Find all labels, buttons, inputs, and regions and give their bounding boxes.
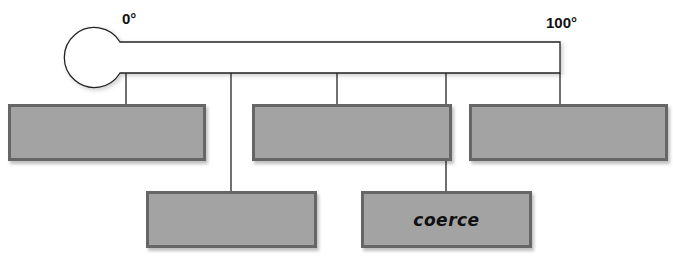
thermometer-outline xyxy=(64,28,560,88)
scale-min-label: 0° xyxy=(122,10,136,27)
box-4-text: coerce xyxy=(413,210,479,230)
answer-box-5[interactable] xyxy=(469,104,668,161)
answer-box-3[interactable] xyxy=(252,104,452,161)
answer-box-1[interactable] xyxy=(8,104,206,161)
scale-max-label: 100° xyxy=(546,14,577,31)
answer-box-2[interactable] xyxy=(146,191,317,248)
answer-box-4[interactable]: coerce xyxy=(361,191,532,248)
